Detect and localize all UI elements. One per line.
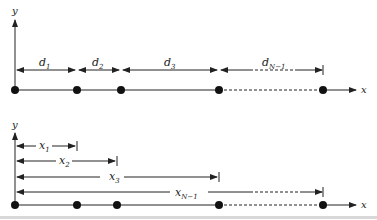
- distance-x2: x2: [17, 154, 117, 169]
- bottom-panel: y x x1 x2 x3: [11, 119, 367, 210]
- bottom-point-5: [319, 201, 327, 209]
- svg-text:d2: d2: [92, 56, 104, 71]
- svg-text:d3: d3: [164, 56, 176, 71]
- segment-d1: d1: [17, 56, 75, 71]
- svg-text:x1: x1: [39, 139, 50, 154]
- top-point-3: [117, 86, 125, 94]
- bottom-divider: [0, 216, 377, 219]
- diagram-canvas: y x d1 d2 d3: [0, 0, 377, 220]
- segment-d2: d2: [79, 56, 119, 71]
- svg-text:x2: x2: [59, 154, 70, 169]
- bottom-y-axis-label: y: [11, 119, 18, 130]
- bottom-x-axis-label: x: [361, 199, 367, 210]
- bottom-point-2: [73, 201, 81, 209]
- svg-text:dN−1: dN−1: [262, 56, 286, 71]
- bottom-point-1: [11, 201, 19, 209]
- distance-x3: x3: [17, 170, 219, 185]
- distance-xN-1: xN−1: [17, 186, 323, 201]
- bottom-point-4: [215, 201, 223, 209]
- top-point-5: [319, 86, 327, 94]
- svg-text:x3: x3: [109, 170, 120, 185]
- segment-d3: d3: [123, 56, 217, 71]
- top-x-axis-label: x: [361, 84, 367, 95]
- distance-x1: x1: [17, 139, 77, 154]
- top-point-4: [215, 86, 223, 94]
- top-point-1: [11, 86, 19, 94]
- svg-text:xN−1: xN−1: [175, 186, 198, 201]
- top-y-axis-label: y: [11, 5, 18, 16]
- svg-text:d1: d1: [39, 56, 51, 71]
- top-point-2: [73, 86, 81, 94]
- top-panel: y x d1 d2 d3: [11, 5, 367, 95]
- segment-dN-1: dN−1: [221, 56, 323, 75]
- bottom-point-3: [113, 201, 121, 209]
